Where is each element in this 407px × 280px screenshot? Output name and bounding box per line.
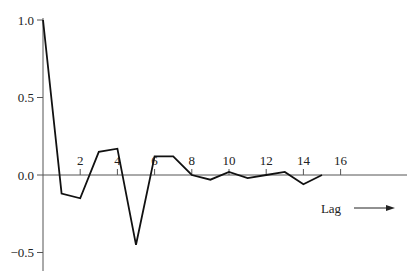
- x-tick-label: 10: [223, 153, 236, 168]
- y-tick-label: 0.0: [18, 168, 34, 183]
- acf-series-line: [43, 20, 322, 245]
- x-tick-label: 14: [297, 153, 311, 168]
- arrow-right-icon: [386, 205, 395, 211]
- x-tick-label: 2: [77, 153, 84, 168]
- y-tick-label: 0.5: [18, 90, 34, 105]
- y-tick-label: −0.5: [10, 245, 34, 260]
- x-axis-label: Lag: [321, 201, 342, 216]
- x-tick-label: 8: [189, 153, 196, 168]
- x-tick-label: 16: [334, 153, 348, 168]
- x-tick-label: 12: [260, 153, 273, 168]
- lag-annotation: Lag: [321, 201, 395, 216]
- y-axis: 1.00.50.0−0.5: [10, 13, 43, 272]
- acf-chart: 1.00.50.0−0.5 246810121416 Lag: [0, 0, 407, 280]
- y-tick-label: 1.0: [18, 13, 34, 28]
